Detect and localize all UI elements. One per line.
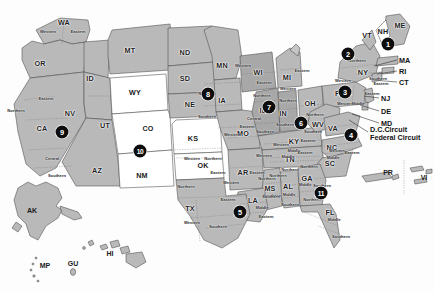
circuit-badge-11[interactable]: 11 — [315, 187, 328, 200]
circuit-badge-4[interactable]: 4 — [345, 129, 358, 142]
circuit-badge-1[interactable]: 1 — [382, 38, 395, 51]
circuit-badge-3[interactable]: 3 — [339, 86, 352, 99]
alaska-region — [12, 182, 82, 240]
circuit-badge-5[interactable]: 5 — [234, 206, 247, 219]
circuit-badge-9[interactable]: 9 — [56, 126, 69, 139]
circuit-badge-6[interactable]: 6 — [295, 117, 308, 130]
pacific-territories-region — [30, 257, 76, 282]
circuit-badge-10[interactable]: 10 — [134, 145, 147, 158]
circuit-5-region — [176, 168, 282, 248]
judicial-circuits-map: .g { fill:#b9b9b9; stroke:#4a4a4a; strok… — [0, 0, 435, 291]
caribbean-territories-region — [362, 160, 432, 194]
map-geography: .g { fill:#b9b9b9; stroke:#4a4a4a; strok… — [0, 0, 435, 291]
hawaii-region — [83, 240, 146, 268]
circuit-badge-2[interactable]: 2 — [342, 48, 355, 61]
circuit-badge-7[interactable]: 7 — [263, 101, 276, 114]
circuit-badge-8[interactable]: 8 — [202, 88, 215, 101]
